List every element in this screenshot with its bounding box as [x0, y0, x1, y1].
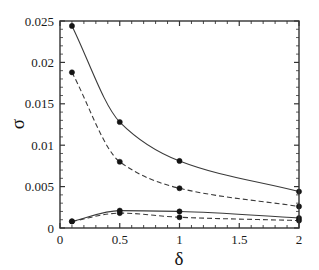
data-point [69, 23, 74, 28]
chart-figure: 00.511.5200.0050.010.0150.020.025 δ σ [0, 0, 319, 270]
y-tick-label: 0.02 [31, 55, 54, 70]
y-tick-label: 0 [48, 221, 55, 236]
y-tick-label: 0.015 [25, 96, 54, 111]
y-tick-label: 0.025 [25, 14, 54, 29]
data-point [117, 119, 122, 124]
data-point [117, 210, 122, 215]
y-tick-label: 0.005 [25, 179, 54, 194]
x-tick-label: 0.5 [112, 232, 128, 247]
line-chart: 00.511.5200.0050.010.0150.020.025 δ σ [0, 0, 319, 270]
data-point [177, 158, 182, 163]
y-tick-label: 0.01 [31, 138, 54, 153]
data-point [177, 186, 182, 191]
x-tick-label: 2 [296, 232, 303, 247]
data-point [117, 159, 122, 164]
data-point [177, 215, 182, 220]
x-axis-title: δ [175, 248, 184, 269]
data-point [177, 209, 182, 214]
x-tick-label: 1.5 [231, 232, 247, 247]
x-tick-label: 1 [176, 232, 183, 247]
data-point [69, 70, 74, 75]
x-tick-label: 0 [57, 232, 64, 247]
data-point [69, 219, 74, 224]
y-axis-title: σ [7, 119, 28, 129]
